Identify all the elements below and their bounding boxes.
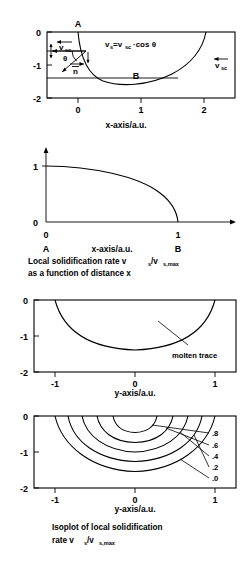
xtick-label-1-panel4: 1 — [212, 495, 217, 505]
vector-vsc-right-sub: sc — [221, 65, 227, 71]
contour-leader-0.0 — [180, 459, 209, 478]
vector-vs-on-boundary — [86, 52, 89, 63]
panel-molten-trace: 0 -1 -2 -1 0 1 molten trace y-axis/a.u. — [0, 288, 252, 398]
xaxis-label-panel4: y-axis/a.u. — [114, 504, 155, 514]
contour-0.4 — [82, 416, 188, 452]
svg-text:/v: /v — [151, 257, 158, 266]
svg-text:s,max: s,max — [163, 261, 180, 267]
contour-0.6 — [97, 416, 173, 443]
theta-label-panel1: θ — [63, 54, 67, 63]
ytick-label-0-panel2: 0 — [33, 218, 38, 228]
xtick-label-1-panel3: 1 — [212, 379, 217, 389]
ytick-label-0-panel3: 0 — [23, 296, 28, 306]
isoplot-caption-line2-group: rate v s /v s,max — [52, 536, 116, 546]
xaxis-panel2 — [46, 220, 236, 225]
caption-line1-group: Local solidification rate v s /v s,max — [28, 257, 180, 267]
molten-trace-leader-line — [158, 321, 188, 345]
normal-label-panel1: n — [73, 67, 78, 76]
caption-line2: as a function of distance x — [28, 269, 131, 278]
contour-label-0.2: .2 — [212, 463, 218, 472]
solidification-rate-curve — [46, 166, 178, 222]
molten-trace-curve — [55, 300, 215, 350]
isoplot-caption-line1: Isoplot of local solidification — [52, 523, 163, 532]
svg-text:=v: =v — [113, 40, 123, 49]
svg-text:·cos θ: ·cos θ — [133, 40, 156, 49]
contour-label-0.6: .6 — [212, 441, 218, 450]
ytick-label-1-panel2: 1 — [33, 162, 38, 172]
xaxis-label-panel3: y-axis/a.u. — [114, 388, 155, 398]
panel-isoplot: 0 -1 -2 -1 0 1 .8 .6 .4 .2 .0 y-axis/a.u… — [0, 404, 252, 514]
vector-vsc-upper-sub: sc — [65, 47, 71, 53]
point-a-label-panel1: A — [75, 19, 82, 29]
xtick-label-2-panel1: 2 — [201, 105, 206, 115]
contour-leader-0.2 — [194, 435, 209, 467]
xaxis-label-panel1: x-axis/a.u. — [105, 120, 146, 130]
panel-melt-pool-cross-section: 0 -1 -2 0 1 2 x-axis/a.u. A B v sc — [0, 0, 252, 132]
vector-vsc-right-label: v — [215, 61, 220, 70]
contour-0.0 — [55, 416, 215, 472]
xtick-label-minus1-panel3: -1 — [51, 379, 59, 389]
xtick-label-1-panel1: 1 — [138, 105, 143, 115]
plot-frame-panel3 — [34, 300, 236, 372]
ytick-label-0-panel1: 0 — [36, 28, 41, 38]
svg-text:s,max: s,max — [99, 540, 116, 546]
contour-0.2 — [68, 416, 202, 462]
ytick-label-minus2-panel4: -2 — [20, 484, 28, 494]
ytick-label-minus1-panel3: -1 — [20, 332, 28, 342]
caption-solidification-rate: Local solidification rate v s /v s,max a… — [0, 252, 252, 286]
contour-label-0.0: .0 — [212, 474, 218, 483]
molten-trace-label: molten trace — [172, 351, 217, 360]
svg-text:rate v: rate v — [52, 536, 74, 545]
svg-text:Local solidification rate v: Local solidification rate v — [28, 257, 127, 266]
panel-solidification-rate-profile: 1 0 0 1 A B x-axis/a.u. — [0, 138, 252, 258]
caption-isoplot: Isoplot of local solidification rate v s… — [0, 518, 252, 552]
xtick-label-minus1-panel4: -1 — [51, 495, 59, 505]
yaxis-panel2 — [44, 147, 49, 222]
contour-0.8 — [113, 416, 157, 433]
equation-vs-vsc-cos-theta: v s =v sc ·cos θ — [105, 40, 156, 50]
contour-label-0.8: .8 — [212, 429, 218, 438]
svg-text:/v: /v — [87, 536, 94, 545]
xtick-label-0-panel1: 0 — [75, 105, 80, 115]
ytick-label-0-panel4: 0 — [23, 412, 28, 422]
ytick-label-minus2-panel3: -2 — [20, 368, 28, 378]
contour-label-0.4: .4 — [212, 452, 219, 461]
ytick-label-minus1-panel1: -1 — [33, 61, 41, 71]
point-b-label-panel1: B — [133, 71, 140, 81]
ytick-label-minus1-panel4: -1 — [20, 448, 28, 458]
xtick-label-0-panel2: 0 — [43, 230, 48, 240]
svg-text:sc: sc — [125, 44, 131, 50]
xtick-label-1-panel2: 1 — [175, 230, 180, 240]
ytick-label-minus2-panel1: -2 — [33, 94, 41, 104]
